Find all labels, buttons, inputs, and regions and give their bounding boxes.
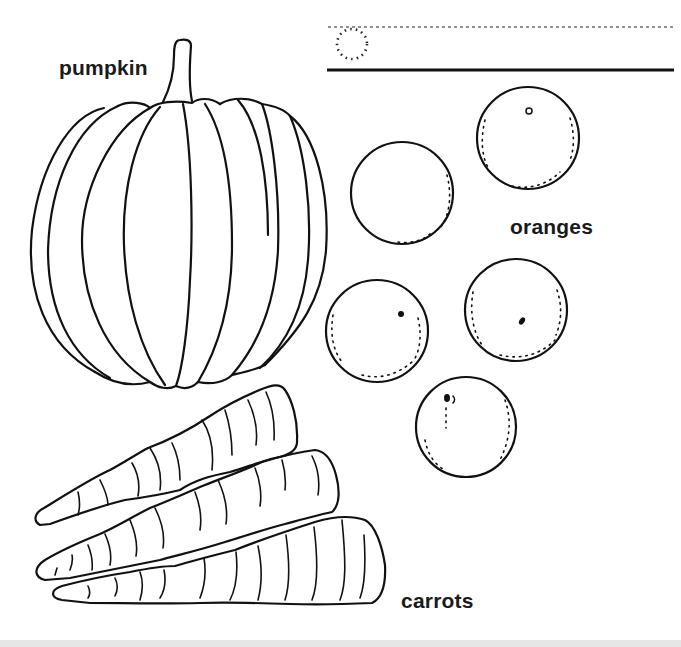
- pumpkin-lobe: [176, 104, 192, 386]
- orange: [477, 87, 579, 189]
- carrot: [36, 450, 338, 580]
- orange: [351, 142, 453, 244]
- pumpkin-lobe: [238, 100, 268, 235]
- oranges-label: oranges: [510, 216, 593, 237]
- pumpkin-stem: [163, 40, 192, 102]
- pumpkin-lobe: [198, 104, 232, 382]
- pumpkin-lobe: [260, 104, 309, 368]
- pumpkin-lobe: [265, 116, 327, 365]
- orange: [416, 377, 516, 477]
- pumpkin-drawing: [31, 40, 327, 388]
- orange: [326, 280, 428, 382]
- pumpkin-label: pumpkin: [59, 57, 148, 78]
- orange-stem-mark: [444, 394, 450, 402]
- carrot: [35, 385, 297, 525]
- pumpkin-lobe: [82, 103, 150, 382]
- orange-stem-mark: [398, 311, 404, 317]
- bottom-edge: [0, 640, 681, 647]
- pumpkin-lobe: [220, 99, 278, 375]
- name-line: [327, 27, 674, 70]
- oranges-drawing: [326, 87, 579, 477]
- carrot: [53, 517, 385, 605]
- orange-stem-mark: [518, 316, 527, 325]
- orange-stem-mark: [526, 108, 532, 114]
- carrots-drawing: [35, 385, 385, 604]
- orange: [465, 259, 567, 361]
- pumpkin-lobe: [124, 107, 165, 385]
- carrots-label: carrots: [401, 590, 474, 611]
- dotted-circle-icon: [337, 29, 367, 59]
- worksheet-canvas: [0, 0, 681, 647]
